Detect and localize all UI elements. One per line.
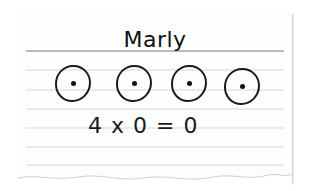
counter-dot	[240, 84, 245, 89]
counter-dot	[132, 81, 137, 86]
counter-dot	[187, 81, 192, 86]
counter-dot	[71, 81, 76, 86]
notebook-paper: Marly 4 x 0 = 0	[18, 13, 292, 183]
student-name: Marly	[18, 27, 292, 52]
equation-text: 4 x 0 = 0	[88, 113, 198, 138]
